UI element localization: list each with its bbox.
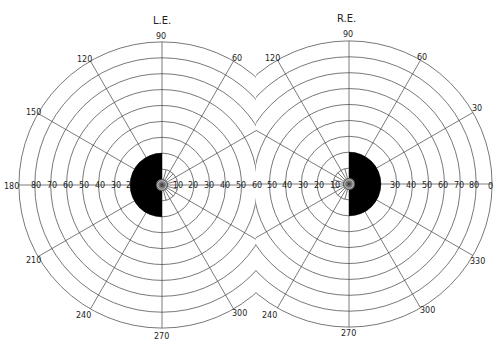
- svg-text:50: 50: [422, 181, 432, 190]
- svg-text:60: 60: [438, 181, 448, 190]
- svg-text:70: 70: [454, 181, 464, 190]
- svg-text:120: 120: [77, 55, 92, 64]
- left-eye-title: L.E.: [153, 15, 171, 26]
- svg-text:210: 210: [26, 256, 41, 265]
- svg-text:270: 270: [341, 329, 356, 338]
- svg-text:30: 30: [111, 181, 121, 190]
- svg-text:80: 80: [469, 181, 479, 190]
- svg-text:270: 270: [154, 332, 169, 341]
- svg-text:30: 30: [390, 181, 400, 190]
- svg-text:150: 150: [26, 108, 41, 117]
- svg-text:40: 40: [406, 181, 416, 190]
- svg-text:120: 120: [265, 54, 280, 63]
- svg-text:40: 40: [95, 181, 105, 190]
- svg-text:80: 80: [31, 181, 41, 190]
- svg-text:330: 330: [470, 257, 485, 266]
- svg-text:40: 40: [220, 181, 230, 190]
- right-eye-field: [206, 41, 492, 327]
- svg-text:300: 300: [232, 309, 247, 318]
- svg-text:60: 60: [252, 181, 262, 190]
- svg-text:30: 30: [298, 181, 308, 190]
- svg-text:10: 10: [330, 181, 340, 190]
- svg-text:90: 90: [343, 30, 353, 39]
- svg-text:240: 240: [76, 311, 91, 320]
- svg-text:60: 60: [63, 181, 73, 190]
- svg-text:30: 30: [472, 104, 482, 113]
- svg-text:20: 20: [188, 181, 198, 190]
- svg-text:70: 70: [47, 181, 57, 190]
- svg-text:60: 60: [417, 53, 427, 62]
- svg-text:50: 50: [236, 181, 246, 190]
- visual-field-chart: L.E. R.E. 90 120 60 150 180 210 240 270 …: [0, 0, 503, 349]
- svg-text:2: 2: [126, 181, 131, 190]
- svg-text:50: 50: [79, 181, 89, 190]
- svg-text:90: 90: [156, 32, 166, 41]
- svg-text:10: 10: [173, 181, 183, 190]
- svg-text:40: 40: [282, 181, 292, 190]
- svg-text:60: 60: [232, 54, 242, 63]
- svg-text:300: 300: [420, 306, 435, 315]
- svg-text:180: 180: [4, 182, 19, 191]
- right-eye-title: R.E.: [337, 13, 356, 24]
- svg-text:20: 20: [314, 181, 324, 190]
- svg-text:50: 50: [267, 181, 277, 190]
- svg-text:0: 0: [488, 182, 493, 191]
- svg-text:240: 240: [262, 311, 277, 320]
- svg-text:30: 30: [204, 181, 214, 190]
